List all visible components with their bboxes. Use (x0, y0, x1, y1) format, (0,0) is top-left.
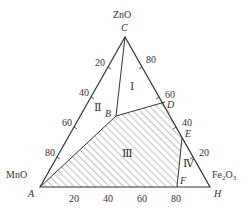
right-tick-20: 20 (199, 147, 209, 158)
line-c-b (116, 37, 125, 116)
component-label-zno: ZnO (113, 9, 131, 20)
component-label-fe2o3: Fe2O3 (212, 169, 237, 182)
bottom-tick-20: 20 (69, 193, 79, 204)
point-label-c: C (121, 22, 128, 33)
point-label-f: F (179, 175, 187, 186)
region-label-i: Ⅰ (130, 80, 134, 92)
ternary-diagram: ZnO MnO Fe2O3 C A H B D E F Ⅰ Ⅱ Ⅲ Ⅳ 20 4… (0, 0, 252, 216)
left-tick-40: 40 (79, 87, 89, 98)
point-label-d: D (166, 99, 175, 110)
bottom-tick-80: 80 (171, 193, 181, 204)
region-label-iii: Ⅲ (122, 147, 133, 159)
right-tick-40: 40 (182, 117, 192, 128)
region-label-iv: Ⅳ (183, 157, 195, 169)
bottom-tick-60: 60 (137, 193, 147, 204)
bottom-tick-40: 40 (103, 193, 113, 204)
left-tick-60: 60 (62, 117, 72, 128)
point-label-e: E (184, 128, 191, 139)
right-tick-80: 80 (146, 54, 156, 65)
component-label-mno: MnO (6, 169, 27, 180)
point-label-b: B (105, 108, 111, 119)
right-tick-60: 60 (165, 89, 175, 100)
point-label-h: H (213, 188, 222, 199)
region-label-ii: Ⅱ (94, 101, 101, 113)
left-tick-80: 80 (45, 147, 55, 158)
point-label-a: A (27, 188, 35, 199)
left-tick-20: 20 (95, 57, 105, 68)
